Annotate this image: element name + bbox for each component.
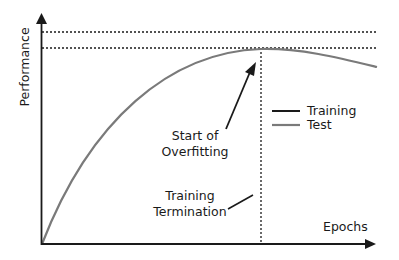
overfitting-annotation-line1: Start of bbox=[150, 129, 240, 143]
termination-annotation-line1: Training bbox=[135, 189, 245, 203]
termination-annotation: Training Termination bbox=[135, 189, 245, 219]
legend-test-label: Test bbox=[307, 118, 332, 132]
overfitting-arrow-shaft bbox=[226, 72, 250, 129]
legend-training-label: Training bbox=[307, 104, 356, 118]
y-axis-label: Performance bbox=[17, 27, 32, 106]
overfitting-annotation-line2: Overfitting bbox=[150, 145, 240, 159]
x-axis-label: Epochs bbox=[323, 220, 368, 234]
x-axis-arrow-icon bbox=[365, 239, 376, 249]
termination-annotation-line2: Termination bbox=[135, 205, 245, 219]
y-axis-arrow-icon bbox=[36, 13, 47, 24]
overfitting-arrow-head-icon bbox=[245, 62, 256, 76]
overfitting-annotation: Start of Overfitting bbox=[150, 129, 240, 159]
